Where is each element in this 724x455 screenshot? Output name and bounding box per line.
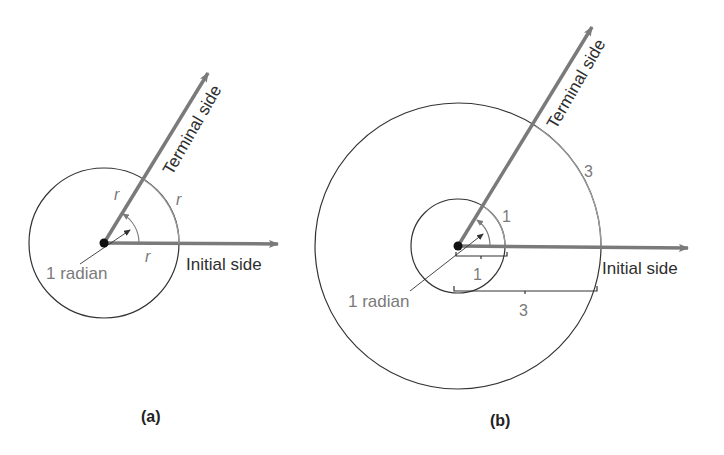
caption-a: (a) — [141, 408, 161, 425]
vertex-dot — [100, 239, 109, 248]
figure-b: 1 3 1 3 1 radian Initial side Terminal s… — [315, 27, 688, 429]
large-arc-label: 3 — [584, 163, 593, 180]
figure-a: r r r 1 radian Initial side Terminal sid… — [29, 73, 278, 425]
initial-side-label: Initial side — [602, 259, 678, 278]
arc-length-3 — [535, 126, 601, 247]
initial-side-label: Initial side — [186, 255, 262, 274]
large-radius-label: 3 — [519, 302, 528, 319]
vertex-dot — [454, 242, 463, 251]
initial-side-ray — [104, 243, 278, 244]
radian-diagram: r r r 1 radian Initial side Terminal sid… — [0, 0, 724, 455]
small-arc-label: 1 — [502, 208, 511, 225]
terminal-side-ray — [458, 27, 592, 246]
angle-label: 1 radian — [348, 292, 409, 311]
angle-arc-icon — [477, 220, 490, 246]
small-radius-label: 1 — [473, 266, 482, 283]
arc-length-r — [144, 180, 179, 243]
angle-arc-icon — [123, 214, 139, 242]
radius-label-terminal: r — [114, 186, 120, 203]
arc-label: r — [176, 191, 182, 208]
angle-label: 1 radian — [46, 264, 107, 283]
radius-label-initial: r — [145, 248, 151, 265]
initial-side-ray — [458, 246, 688, 248]
terminal-side-ray — [104, 73, 208, 243]
bracket-radius-1 — [456, 252, 507, 259]
caption-b: (b) — [490, 412, 510, 429]
